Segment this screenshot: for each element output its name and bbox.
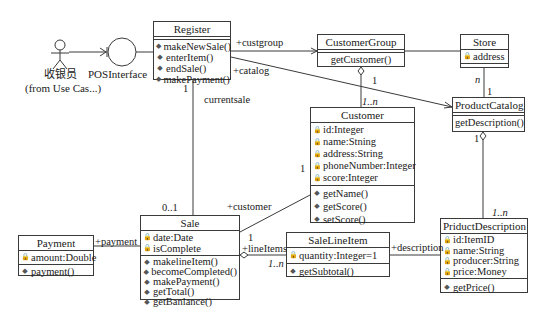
class-register[interactable]: Register ◆makeNewSale() ◆enterItem() ◆en…: [153, 21, 231, 80]
method-icon: ◆: [143, 257, 151, 267]
lock-icon: 🔒: [313, 160, 321, 172]
class-name: CustomerGroup: [318, 35, 404, 50]
role-currentsale: currentsale: [204, 94, 250, 105]
lock-icon: 🔒: [21, 252, 29, 263]
class-payment[interactable]: Payment 🔒amount:Double ◆payment(): [18, 235, 94, 276]
class-name: Customer: [311, 108, 414, 123]
operations-section: ◆makeNewSale() ◆enterItem() ◆endSale() ◆…: [154, 40, 230, 86]
class-store[interactable]: Store 🔒address: [460, 34, 509, 68]
lock-icon: 🔒: [313, 136, 321, 148]
class-name: SaleLineItem: [287, 233, 389, 248]
method-icon: ◆: [143, 297, 151, 307]
operation: getBanlance(): [153, 297, 212, 307]
actor-note: (from Use Cas...): [25, 83, 101, 94]
mult-customergroup: 1: [372, 75, 377, 86]
class-product-catalog[interactable]: ProductCatalog getDescription(): [452, 97, 525, 132]
lock-icon: 🔒: [143, 243, 151, 254]
attribute: id:ItemID: [453, 235, 494, 246]
mult-description: 1..n: [492, 207, 508, 218]
operation: getCustomer(): [331, 54, 392, 65]
method-icon: ◆: [21, 266, 29, 277]
operation: getScore(): [323, 200, 367, 213]
lock-icon: 🔒: [143, 232, 151, 243]
method-icon: ◆: [313, 187, 321, 200]
lock-icon: 🔒: [313, 148, 321, 160]
attributes-section: 🔒date:Date 🔒isComplete: [141, 231, 239, 256]
operation: endSale(): [166, 63, 206, 74]
operation: enterItem(): [166, 52, 213, 63]
class-customer-group[interactable]: CustomerGroup getCustomer(): [317, 34, 405, 67]
actor-head: [55, 40, 65, 50]
operations-section: ◆makelineItem() ◆becomeCompleted() ◆make…: [141, 256, 239, 308]
attributes-section: 🔒id:Integer 🔒name:Stning 🔒address:String…: [311, 123, 414, 186]
attribute: date:Date: [153, 232, 193, 243]
operations-section: getCustomer(): [318, 53, 404, 66]
mult-customer: 1..n: [362, 96, 378, 107]
interface-circle: [108, 38, 136, 66]
method-icon: ◆: [143, 267, 149, 277]
class-product-description[interactable]: PriductDescription 🔒id:ItemID 🔒name:Stri…: [440, 218, 528, 293]
class-customer[interactable]: Customer 🔒id:Integer 🔒name:Stning 🔒addre…: [310, 107, 415, 223]
operations-section: ◆getPrice(): [441, 279, 527, 296]
operation: setScore(): [323, 213, 366, 226]
role-custgroup: +custgroup: [236, 37, 283, 48]
method-icon: ◆: [143, 287, 151, 297]
operation: payment(): [31, 266, 74, 277]
attribute: id:Integer: [323, 124, 364, 136]
attribute: quantity:Integer=1: [299, 250, 377, 261]
lock-icon: 🔒: [313, 124, 321, 136]
operations-section: ◆getSubtotal(): [287, 264, 389, 279]
attribute: price:Money: [453, 267, 507, 278]
method-icon: ◆: [313, 213, 321, 226]
operation: getName(): [323, 187, 368, 200]
mult-lineitems-many: 1..n: [268, 258, 284, 269]
operation: getPrice(): [453, 282, 494, 293]
method-icon: ◆: [156, 74, 161, 85]
operation: getSubtotal(): [299, 266, 354, 277]
class-name: Register: [154, 22, 230, 37]
class-sale[interactable]: Sale 🔒date:Date 🔒isComplete ◆makelineIte…: [140, 215, 240, 300]
role-lineitems: +lineItems: [242, 243, 287, 254]
role-customer: +customer: [227, 201, 271, 212]
attribute: producer:String: [453, 256, 519, 267]
attribute: address: [473, 51, 505, 62]
attributes-section: 🔒quantity:Integer=1: [287, 248, 389, 264]
mult-catalog-bottom: 1: [474, 133, 479, 144]
attribute: score:Integer: [323, 172, 378, 184]
mult-lineitems-one: 1: [248, 232, 253, 243]
role-catalog: +catalog: [233, 65, 269, 76]
method-icon: ◆: [313, 200, 321, 213]
operations-section: getDescription(): [453, 116, 524, 129]
class-name: ProductCatalog: [453, 98, 524, 113]
lock-icon: 🔒: [443, 267, 451, 278]
lock-icon: 🔒: [443, 235, 451, 246]
lock-icon: 🔒: [313, 172, 321, 184]
method-icon: ◆: [156, 41, 161, 52]
lock-icon: 🔒: [463, 51, 471, 62]
class-name: PriductDescription: [441, 219, 527, 234]
mult-customer-assoc: 1: [300, 163, 305, 174]
operations-section: ◆payment(): [19, 265, 93, 278]
class-sale-line-item[interactable]: SaleLineItem 🔒quantity:Integer=1 ◆getSub…: [286, 232, 390, 277]
lock-icon: 🔒: [443, 246, 451, 257]
method-icon: ◆: [443, 282, 451, 293]
method-icon: ◆: [289, 266, 297, 277]
attribute: name:Stning: [323, 136, 376, 148]
attributes-section: 🔒amount:Double: [19, 251, 93, 265]
operations-section: [461, 64, 508, 72]
method-icon: ◆: [156, 52, 164, 63]
class-name: Payment: [19, 236, 93, 251]
attributes-section: 🔒id:ItemID 🔒name:String 🔒producer:String…: [441, 234, 527, 279]
method-icon: ◆: [156, 63, 164, 74]
lock-icon: 🔒: [289, 250, 297, 261]
operations-section: ◆getName() ◆getScore() ◆setScore(): [311, 186, 414, 227]
operation: makePayment(): [163, 74, 229, 85]
actor-name: 收银员: [44, 69, 77, 80]
role-description: +description: [391, 242, 444, 253]
attribute: phoneNumber:Integer: [323, 160, 416, 172]
interface-name: POSInterface: [88, 69, 147, 80]
attribute: address:String: [323, 148, 383, 160]
method-icon: ◆: [143, 277, 151, 287]
role-payment: +payment: [95, 236, 137, 247]
operation: makeNewSale(): [163, 41, 231, 52]
